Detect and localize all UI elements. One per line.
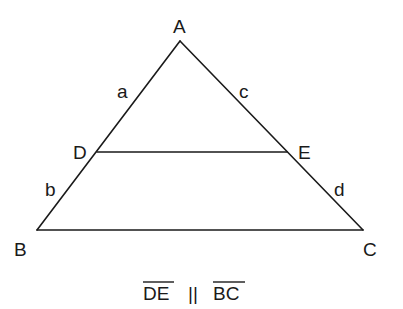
triangle-diagram: A B C D E a b c d DE || BC — [0, 0, 403, 309]
side-ac — [180, 41, 363, 230]
caption-parallel-symbol: || — [188, 283, 198, 304]
segment-label-c: c — [239, 81, 249, 102]
parallel-caption: DE || BC — [143, 282, 245, 304]
caption-de: DE — [143, 283, 169, 304]
vertex-label-d: D — [73, 142, 87, 163]
side-ab — [37, 41, 180, 230]
segment-label-a: a — [117, 81, 128, 102]
caption-bc: BC — [213, 283, 239, 304]
vertex-label-c: C — [363, 239, 377, 260]
vertex-label-a: A — [173, 16, 186, 37]
segment-label-d: d — [334, 179, 345, 200]
segment-label-b: b — [45, 179, 56, 200]
vertex-label-e: E — [298, 142, 311, 163]
vertex-label-b: B — [14, 239, 27, 260]
